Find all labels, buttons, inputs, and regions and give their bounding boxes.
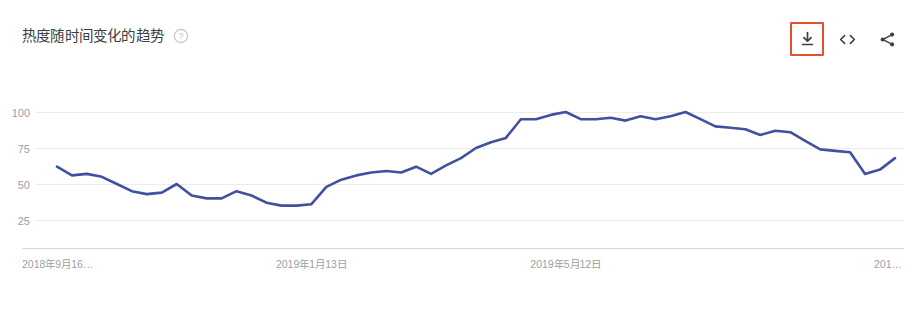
download-icon [799,31,816,48]
x-axis-tick-label: 2019年1月13日 [276,258,347,270]
help-circle-icon[interactable]: ? [173,28,189,44]
card-header: 热度随时间变化的趋势 ? [0,22,920,62]
x-axis-tick-label: 201… [874,258,902,270]
gridlines [36,113,904,221]
share-icon [879,31,896,48]
download-button[interactable] [790,22,824,56]
y-axis-tick-label: 25 [18,215,30,227]
page-title: 热度随时间变化的趋势 [22,22,164,50]
y-axis-tick-label: 100 [12,107,30,119]
y-axis-tick-label: 50 [18,179,30,191]
interest-over-time-card: 热度随时间变化的趋势 ? [0,0,920,321]
y-axis-tick-label: 75 [18,143,30,155]
y-axis-tick-labels: 100755025 [12,107,30,227]
share-button[interactable] [870,22,904,56]
code-embed-icon [838,31,857,48]
svg-text:?: ? [179,31,184,41]
x-axis-tick-label: 2018年9月16… [22,258,93,270]
x-axis-tick-labels: 2018年9月16…2019年1月13日2019年5月12日201… [22,258,902,270]
x-axis-tick-label: 2019年5月12日 [530,258,601,270]
trend-line-series [57,112,895,206]
embed-button[interactable] [830,22,864,56]
title-group: 热度随时间变化的趋势 ? [22,22,189,50]
chart-toolbar [790,19,904,59]
